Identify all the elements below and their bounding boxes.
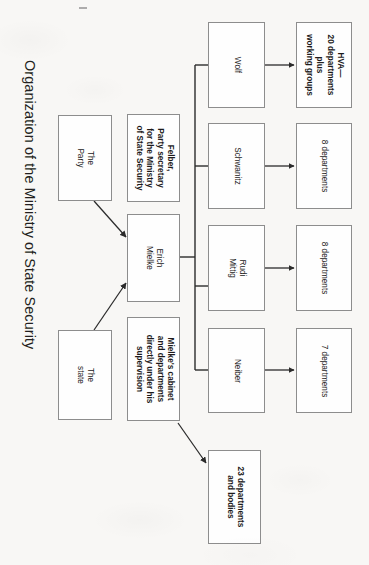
- node-label: Neiber: [231, 358, 241, 382]
- node-label: 23 departmentsand bodies: [224, 467, 245, 528]
- node-label: ErichMielke: [143, 246, 164, 270]
- connector-party-to-mielke: [94, 201, 126, 237]
- node-schwanitz: Schwanitz: [208, 123, 265, 209]
- node-label: 8 departments: [319, 140, 329, 193]
- node-label: HVA—20 departmentsplusworking groups: [303, 34, 345, 96]
- node-rudi-mittig: RudiMittig: [208, 225, 265, 311]
- node-neiber: Neiber: [208, 328, 265, 413]
- node-label: TheParty: [75, 148, 96, 167]
- scan-artifact-mark: [79, 7, 87, 9]
- node-wolf: Wolf: [208, 22, 265, 108]
- node-label: RudiMittig: [226, 258, 247, 278]
- node-23-departments-and-bodies: 23 departmentsand bodies: [208, 450, 261, 544]
- node-felber: Felber,Party secretaryfor the Ministryof…: [127, 114, 180, 202]
- node-label: 7 departments: [319, 344, 329, 397]
- node-label: 8 departments: [319, 242, 329, 295]
- connector-cabinet-to-bodies: [178, 423, 206, 463]
- node-label: Thestate: [75, 366, 96, 384]
- node-mittig-departments: 8 departments: [296, 225, 352, 311]
- org-chart-figure: Organization of the Ministry of State Se…: [0, 0, 369, 565]
- connector-state-to-mielke: [94, 283, 126, 330]
- node-mielke-cabinet: Mielke's cabinetand departmentsdirectly …: [127, 317, 180, 421]
- node-erich-mielke: ErichMielke: [127, 214, 180, 302]
- node-the-party: TheParty: [58, 115, 112, 201]
- node-label: Felber,Party secretaryfor the Ministryof…: [133, 126, 175, 191]
- node-label: Wolf: [231, 57, 241, 73]
- node-schwanitz-departments: 8 departments: [296, 123, 352, 209]
- node-hva-departments: HVA—20 departmentsplusworking groups: [296, 22, 352, 108]
- node-label: Mielke's cabinetand departmentsdirectly …: [133, 335, 175, 404]
- node-neiber-departments: 7 departments: [296, 328, 352, 413]
- node-label: Schwanitz: [231, 147, 241, 185]
- node-the-state: Thestate: [58, 330, 112, 420]
